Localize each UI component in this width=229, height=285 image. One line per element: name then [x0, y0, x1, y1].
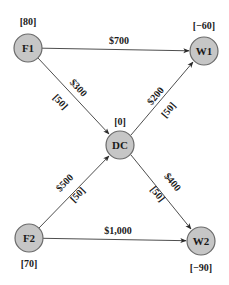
edge-f2-w2: $1,000	[43, 225, 186, 241]
node-label: F2	[23, 232, 36, 244]
edge-capacity-label: [50]	[68, 185, 87, 205]
node-supply-label: [70]	[21, 258, 38, 269]
node-f1: F1 [80]	[14, 16, 42, 62]
arrow-line	[43, 238, 186, 240]
edge-f2-dc: $500 [50]	[39, 156, 109, 228]
node-label: W1	[196, 45, 213, 57]
edge-f1-w1: $700	[42, 35, 189, 51]
edge-cost-label: $400	[162, 171, 183, 193]
arrow-line	[42, 48, 189, 51]
edge-cost-label: $1,000	[104, 225, 132, 236]
node-balance-label: [0]	[114, 116, 126, 127]
arrow-line	[131, 62, 193, 135]
diagram-svg: $700 $300 [50] $200 [50] $500 [50] $400 …	[0, 0, 229, 285]
edge-dc-w2: $400 [50]	[131, 155, 191, 229]
node-dc: DC [0]	[106, 116, 134, 159]
edge-cost-label: $200	[145, 85, 166, 107]
node-label: DC	[112, 139, 128, 151]
edge-capacity-label: [50]	[148, 184, 167, 204]
edge-capacity-label: [50]	[51, 92, 70, 112]
node-demand-label: [−90]	[190, 262, 212, 273]
arrow-line	[38, 58, 109, 134]
node-w2: W2 [−90]	[187, 227, 215, 273]
edge-dc-w1: $200 [50]	[131, 62, 193, 135]
node-w1: W1 [−60]	[190, 20, 218, 65]
edge-cost-label: $500	[54, 172, 76, 194]
edge-cost-label: $700	[109, 35, 129, 46]
network-diagram: $700 $300 [50] $200 [50] $500 [50] $400 …	[0, 0, 229, 285]
node-label: W2	[193, 235, 210, 247]
node-supply-label: [80]	[20, 16, 37, 27]
node-demand-label: [−60]	[193, 20, 215, 31]
node-f2: F2 [70]	[15, 224, 43, 269]
node-label: F1	[22, 42, 34, 54]
edge-capacity-label: [50]	[159, 100, 178, 120]
edge-f1-dc: $300 [50]	[38, 58, 109, 134]
edge-cost-label: $300	[68, 77, 90, 99]
